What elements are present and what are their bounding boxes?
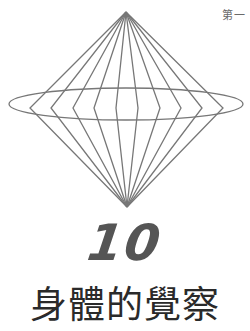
- chapter-title: 身體的覺察: [0, 284, 250, 328]
- cone-line: [126, 12, 181, 207]
- double-cone-illustration: [0, 0, 250, 220]
- chapter-number: 10: [0, 213, 250, 273]
- cone-line: [73, 12, 127, 207]
- cone-lines: [30, 12, 223, 207]
- cone-line: [126, 12, 223, 207]
- ellipse-ring: [9, 88, 243, 120]
- cone-line: [30, 12, 127, 207]
